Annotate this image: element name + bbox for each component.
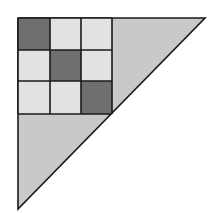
light-grid-cell [18,81,50,114]
dark-grid-cell [81,81,112,114]
light-grid-cell [18,50,50,81]
light-grid-cell [50,81,81,114]
triangle-grid-diagram [0,0,219,213]
light-grid-cell [50,18,81,50]
dark-grid-cell [18,18,50,50]
light-grid-cell [81,18,112,50]
light-grid-cell [81,50,112,81]
dark-grid-cell [50,50,81,81]
grid-cells [18,18,112,114]
